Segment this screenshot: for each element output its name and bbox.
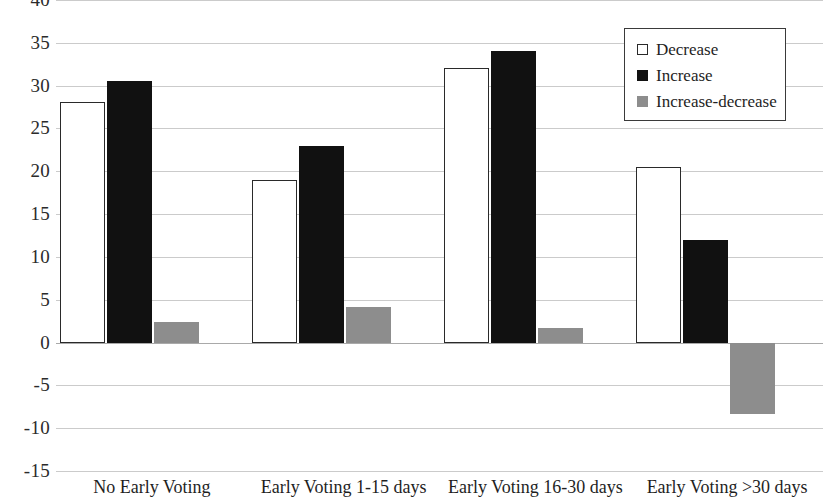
legend-swatch-decrease-icon	[637, 44, 648, 55]
bar-decrease	[636, 167, 681, 343]
y-axis-tick-label: 10	[0, 247, 50, 266]
y-axis-tick-label: 20	[0, 161, 50, 180]
y-axis-tick-label: 0	[0, 333, 50, 352]
y-axis-tick-label: -15	[0, 461, 50, 480]
x-axis-tick-label: Early Voting 1-15 days	[248, 474, 440, 500]
y-axis-tick-label: 5	[0, 290, 50, 309]
bar-decrease	[252, 180, 297, 343]
bar-chart: 4035302520151050-5-10-15 No Early Voting…	[0, 0, 823, 502]
y-axis-tick-label: -10	[0, 418, 50, 437]
bar-increase	[107, 81, 152, 342]
legend-item-label: Increase	[656, 67, 713, 84]
bar-decrease	[60, 102, 105, 343]
legend-swatch-increase-decrease-icon	[637, 96, 648, 107]
y-axis-tick-label: 35	[0, 33, 50, 52]
legend-item-increase[interactable]: Increase	[637, 62, 785, 88]
legend-item-increase-decrease[interactable]: Increase-decrease	[637, 88, 785, 114]
bar-increase	[299, 146, 344, 343]
y-axis-tick-label: 30	[0, 76, 50, 95]
x-axis-tick-label: Early Voting 16-30 days	[440, 474, 632, 500]
bar-increase	[491, 51, 536, 342]
bar-increase-decrease	[154, 322, 199, 343]
legend: DecreaseIncreaseIncrease-decrease	[624, 28, 786, 121]
legend-item-label: Increase-decrease	[656, 93, 777, 110]
bar-increase	[683, 240, 728, 343]
gridline	[56, 471, 823, 472]
y-axis-tick-label: 25	[0, 118, 50, 137]
x-axis: No Early VotingEarly Voting 1-15 daysEar…	[56, 474, 823, 502]
legend-item-decrease[interactable]: Decrease	[637, 36, 785, 62]
x-axis-tick-label: Early Voting >30 days	[631, 474, 823, 500]
legend-item-label: Decrease	[656, 41, 718, 58]
bar-increase-decrease	[346, 307, 391, 343]
legend-swatch-increase-icon	[637, 70, 648, 81]
bar-increase-decrease	[730, 343, 775, 415]
bar-decrease	[444, 68, 489, 343]
y-axis-tick-label: 40	[0, 0, 50, 9]
bar-increase-decrease	[538, 328, 583, 343]
x-axis-tick-label: No Early Voting	[56, 474, 248, 500]
y-axis-tick-label: 15	[0, 204, 50, 223]
y-axis: 4035302520151050-5-10-15	[0, 0, 50, 502]
y-axis-tick-label: -5	[0, 375, 50, 394]
